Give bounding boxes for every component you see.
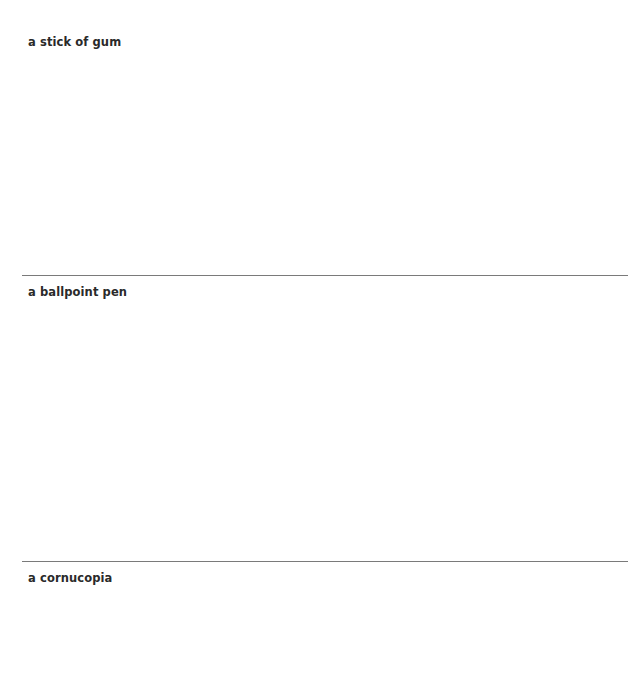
item-label: a ballpoint pen	[28, 285, 127, 299]
item-label: a stick of gum	[28, 35, 121, 49]
section-divider	[22, 561, 628, 562]
item-label: a cornucopia	[28, 571, 112, 585]
item-section-cornucopia: a cornucopia	[22, 561, 628, 692]
item-section-stick-of-gum: a stick of gum	[22, 0, 628, 275]
item-section-ballpoint-pen: a ballpoint pen	[22, 275, 628, 561]
section-divider	[22, 275, 628, 276]
